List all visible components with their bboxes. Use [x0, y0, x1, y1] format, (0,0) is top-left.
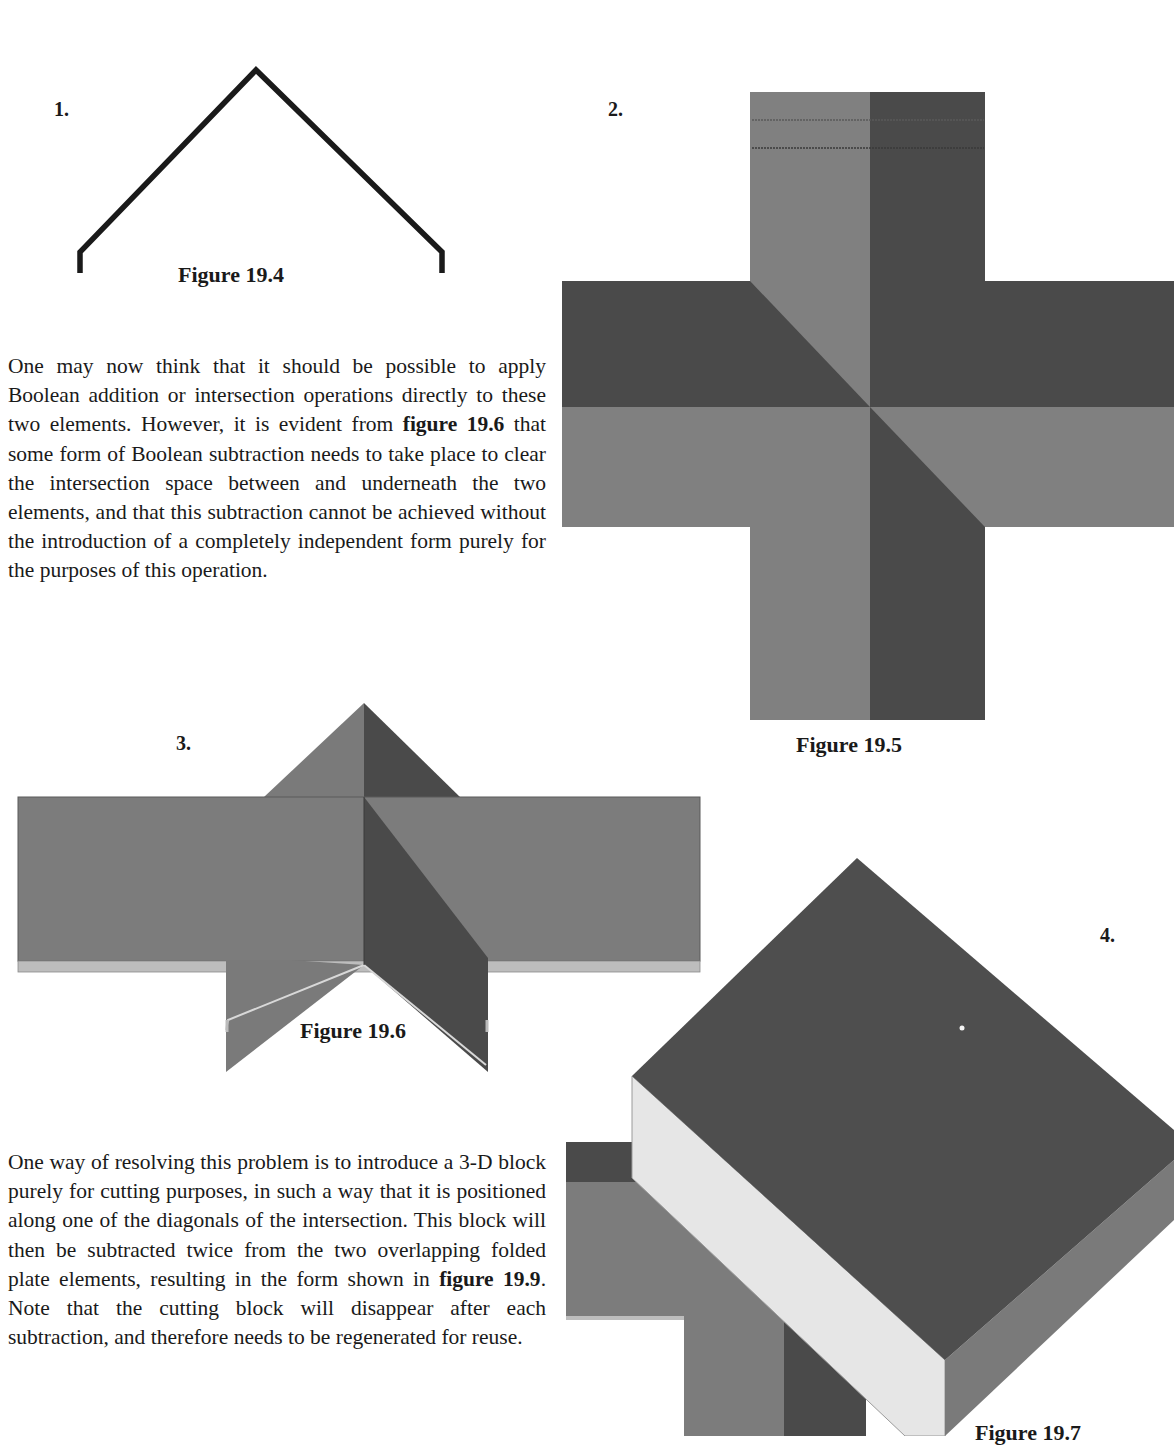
figure-caption-19-5: Figure 19.5 [796, 732, 902, 758]
figure-reference-19-6: figure 19.6 [403, 412, 505, 436]
body-paragraph-1: One may now think that it should be poss… [8, 352, 546, 586]
body-paragraph-2: One way of resolving this problem is to … [8, 1148, 546, 1352]
figure-caption-19-6: Figure 19.6 [300, 1018, 406, 1044]
figure-number-4: 4. [1100, 924, 1115, 947]
figure-caption-19-4: Figure 19.4 [178, 262, 284, 288]
figure-caption-19-7: Figure 19.7 [975, 1420, 1081, 1446]
para1-text-b: that some form of Boolean subtraction ne… [8, 412, 546, 582]
figure-reference-19-9: figure 19.9 [439, 1267, 541, 1291]
figure-number-2: 2. [608, 98, 623, 121]
figure-number-3: 3. [176, 732, 191, 755]
figure-number-1: 1. [54, 98, 69, 121]
